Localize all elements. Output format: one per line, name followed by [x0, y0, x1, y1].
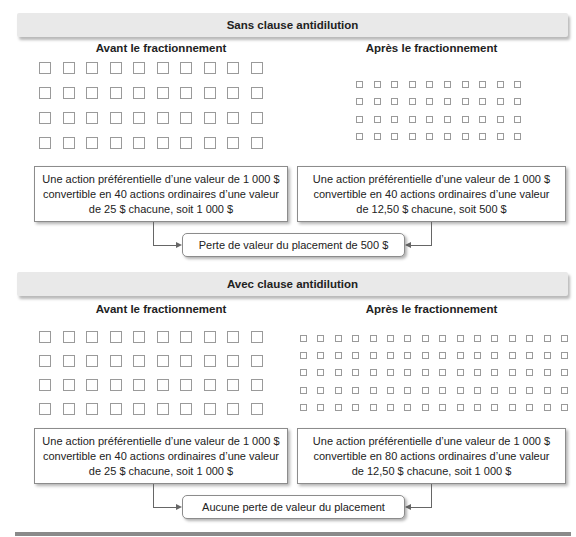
share-square-icon	[404, 404, 411, 411]
share-square-icon	[352, 352, 359, 359]
share-square-icon	[457, 369, 464, 376]
share-square-icon	[409, 116, 416, 123]
result-text: Perte de valeur du placement de 500 $	[199, 239, 389, 251]
share-square-icon	[426, 98, 433, 105]
share-square-icon	[409, 98, 416, 105]
share-square-icon	[227, 62, 239, 74]
share-square-icon	[370, 335, 377, 342]
section-title: Sans clause antidilution	[227, 19, 359, 31]
share-square-icon	[391, 98, 398, 105]
share-square-icon	[352, 335, 359, 342]
share-square-icon	[110, 331, 122, 343]
share-square-icon	[409, 81, 416, 88]
share-square-icon	[133, 112, 145, 124]
share-square-icon	[462, 98, 469, 105]
share-square-icon	[317, 335, 324, 342]
share-square-icon	[544, 369, 551, 376]
share-square-icon	[474, 387, 481, 394]
share-square-icon	[561, 387, 568, 394]
share-square-icon	[86, 379, 98, 391]
share-square-icon	[86, 87, 98, 99]
share-square-icon	[180, 379, 192, 391]
share-square-icon	[374, 133, 381, 140]
share-square-icon	[133, 62, 145, 74]
share-square-icon	[251, 87, 263, 99]
share-square-icon	[356, 98, 363, 105]
share-square-icon	[133, 137, 145, 149]
share-square-icon	[474, 404, 481, 411]
share-square-icon	[110, 62, 122, 74]
share-square-icon	[227, 379, 239, 391]
share-square-icon	[110, 112, 122, 124]
share-square-icon	[444, 81, 451, 88]
share-square-icon	[133, 379, 145, 391]
description-line: de 25 $ chacune, soit 1 000 $	[42, 202, 279, 217]
share-square-icon	[422, 335, 429, 342]
share-square-icon	[462, 81, 469, 88]
share-square-icon	[509, 387, 516, 394]
share-square-icon	[356, 116, 363, 123]
share-square-icon	[404, 335, 411, 342]
share-square-icon	[63, 331, 75, 343]
share-square-icon	[133, 331, 145, 343]
share-square-icon	[204, 403, 216, 415]
share-square-icon	[110, 355, 122, 367]
share-square-icon	[157, 137, 169, 149]
share-square-icon	[251, 403, 263, 415]
share-square-icon	[457, 404, 464, 411]
share-square-icon	[409, 133, 416, 140]
share-square-icon	[180, 355, 192, 367]
connector-line	[153, 484, 154, 508]
description-line: convertible en 80 actions ordinaires d’u…	[313, 449, 550, 464]
before-split-heading: Avant le fractionnement	[34, 42, 288, 54]
share-square-icon	[39, 355, 51, 367]
share-square-icon	[444, 98, 451, 105]
share-square-icon	[204, 62, 216, 74]
share-square-icon	[474, 369, 481, 376]
share-square-icon	[180, 403, 192, 415]
share-square-icon	[439, 352, 446, 359]
share-square-icon	[227, 112, 239, 124]
connector-line	[153, 245, 177, 246]
share-square-icon	[204, 137, 216, 149]
arrow-left-icon	[405, 242, 411, 248]
share-square-icon	[157, 403, 169, 415]
share-square-icon	[374, 81, 381, 88]
share-square-icon	[335, 352, 342, 359]
share-square-icon	[86, 355, 98, 367]
connector-line	[153, 507, 177, 508]
share-square-icon	[387, 335, 394, 342]
share-square-icon	[491, 335, 498, 342]
share-square-icon	[227, 355, 239, 367]
share-square-icon	[157, 355, 169, 367]
share-square-icon	[370, 404, 377, 411]
before-split-description: Une action préférentielle d’une valeur d…	[34, 428, 288, 484]
share-square-icon	[39, 403, 51, 415]
share-square-icon	[86, 112, 98, 124]
share-square-icon	[63, 403, 75, 415]
share-square-icon	[491, 387, 498, 394]
share-square-icon	[462, 116, 469, 123]
share-square-icon	[509, 352, 516, 359]
share-square-icon	[509, 369, 516, 376]
share-square-icon	[544, 352, 551, 359]
share-square-icon	[110, 379, 122, 391]
share-square-icon	[180, 137, 192, 149]
description-line: convertible en 40 actions ordinaires d’u…	[313, 187, 550, 202]
share-square-icon	[317, 352, 324, 359]
share-square-icon	[157, 62, 169, 74]
description-line: de 12,50 $ chacune, soit 500 $	[313, 202, 550, 217]
share-square-icon	[317, 387, 324, 394]
share-square-icon	[251, 331, 263, 343]
share-square-icon	[444, 133, 451, 140]
share-square-icon	[387, 404, 394, 411]
share-square-icon	[39, 379, 51, 391]
share-square-icon	[251, 137, 263, 149]
share-square-icon	[491, 352, 498, 359]
share-square-icon	[439, 369, 446, 376]
share-square-icon	[561, 369, 568, 376]
share-square-icon	[479, 98, 486, 105]
share-square-icon	[63, 87, 75, 99]
share-square-icon	[370, 387, 377, 394]
share-square-icon	[227, 87, 239, 99]
